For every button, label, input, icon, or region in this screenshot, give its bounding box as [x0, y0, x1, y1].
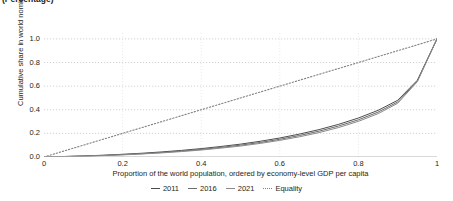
legend-item-2021[interactable]: 2021	[226, 184, 255, 193]
chart-canvas	[44, 33, 437, 157]
plot-area	[44, 33, 437, 157]
x-tick-label: 0.4	[186, 160, 216, 168]
legend-label: 2021	[238, 184, 255, 193]
legend-swatch-equality	[263, 188, 272, 189]
legend-item-2011[interactable]: 2011	[151, 184, 179, 193]
series-line-equality	[44, 39, 437, 157]
legend-item-equality[interactable]: Equality	[263, 184, 302, 193]
legend-swatch-2011	[151, 188, 160, 189]
x-tick-label: 0	[29, 160, 59, 168]
legend-label: 2016	[200, 184, 217, 193]
y-tick-label: 0.6	[18, 82, 40, 90]
y-tick-label: 0.4	[18, 106, 40, 114]
y-tick-label: 0.2	[18, 129, 40, 137]
x-tick-label: 1	[422, 160, 452, 168]
x-tick-label: 0.6	[265, 160, 295, 168]
legend-label: Equality	[275, 184, 302, 193]
y-axis-ticks: 0.00.20.40.60.81.0	[14, 33, 40, 157]
y-tick-label: 1.0	[18, 35, 40, 43]
y-tick-label: 0.8	[18, 59, 40, 67]
legend-swatch-2016	[188, 188, 197, 189]
x-tick-label: 0.2	[108, 160, 138, 168]
unit-note: (Percentage)	[2, 0, 54, 4]
legend-swatch-2021	[226, 188, 235, 189]
lorenz-curve-figure: (Percentage) Cumulative share in world n…	[0, 0, 453, 201]
x-axis-title: Proportion of the world population, orde…	[44, 169, 437, 178]
x-tick-label: 0.8	[343, 160, 373, 168]
legend-label: 2011	[163, 184, 179, 193]
chart-legend: 201120162021Equality	[0, 184, 453, 193]
legend-item-2016[interactable]: 2016	[188, 184, 217, 193]
